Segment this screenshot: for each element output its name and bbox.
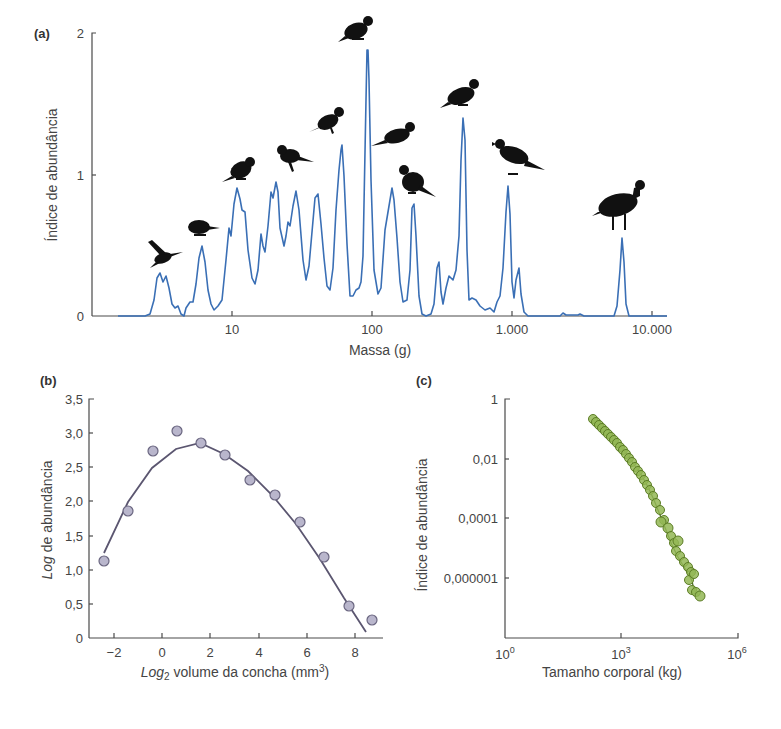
panel-c-y-label: Índice de abundância xyxy=(414,458,430,591)
panel-b-ytick: 2,5 xyxy=(65,460,83,475)
panel-c-trend-line xyxy=(593,420,699,596)
panel-b-ytick: 2,0 xyxy=(65,494,83,509)
panel-a-xtick: 10 xyxy=(225,322,239,337)
panel-c-ytick: 0,000001 xyxy=(444,571,498,586)
panel-c-points xyxy=(589,415,706,602)
panel-c-ytick: 1 xyxy=(491,392,498,407)
quail-silhouette-icon xyxy=(399,165,436,197)
panel-b-xtick: 6 xyxy=(303,645,310,660)
panel-b-xtick: 2 xyxy=(206,645,213,660)
panel-a-y-label: Índice de abundância xyxy=(44,108,60,241)
dove-silhouette-icon xyxy=(371,122,415,146)
panel-b-fit-line xyxy=(104,443,366,632)
pigeon-silhouette-icon xyxy=(440,79,479,108)
sparrow-silhouette-icon xyxy=(277,145,314,172)
grouse-silhouette-icon xyxy=(592,180,645,230)
panel-c-xtick: 103 xyxy=(611,645,630,662)
panel-b-ytick: 1,5 xyxy=(65,529,83,544)
panel-b-xtick: 0 xyxy=(158,645,165,660)
panel-b-label: (b) xyxy=(40,373,57,388)
panel-b-points xyxy=(99,426,377,625)
panel-a-x-label: Massa (g) xyxy=(349,342,411,358)
panel-c-x-label: Tamanho corporal (kg) xyxy=(542,664,682,680)
panel-b-ytick: 3,5 xyxy=(65,392,83,407)
panel-b-x-label: Log2 volume da concha (mm3) xyxy=(141,663,330,682)
panel-b-ytick: 0 xyxy=(76,631,83,646)
panel-a-abundance-curve xyxy=(118,50,667,316)
panel-a-xtick: 10.000 xyxy=(632,322,672,337)
hummingbird-silhouette-icon xyxy=(148,240,183,268)
thrush-silhouette-icon xyxy=(309,107,344,134)
panel-c-ytick: 0,01 xyxy=(473,452,498,467)
panel-c-ytick: 0,0001 xyxy=(458,511,498,526)
panel-b-y-label: Log de abundância xyxy=(39,460,55,579)
finch-silhouette-icon xyxy=(222,157,255,182)
panel-b-ytick: 1,0 xyxy=(65,563,83,578)
small-bird-silhouette-icon xyxy=(188,220,220,236)
panel-a-label: (a) xyxy=(34,26,50,41)
starling-silhouette-icon xyxy=(338,16,373,43)
panel-a: (a) 2 1 0 10 100 1.000 10.000 Massa (g) … xyxy=(34,16,672,358)
panel-a-xtick: 100 xyxy=(361,322,383,337)
panel-b-ytick: 3,0 xyxy=(65,426,83,441)
panel-b-xtick: 4 xyxy=(255,645,262,660)
panel-a-ytick: 0 xyxy=(77,309,84,324)
panel-a-ytick: 1 xyxy=(77,168,84,183)
panel-c-label: (c) xyxy=(416,373,432,388)
panel-c: (c) 1 0,01 0,0001 0,000001 100 103 106 T… xyxy=(414,373,747,680)
panel-a-ytick: 2 xyxy=(77,26,84,41)
crow-silhouette-icon xyxy=(492,139,545,175)
panel-c-xtick: 106 xyxy=(727,645,746,662)
panel-b-xtick: −2 xyxy=(107,645,122,660)
figure: (a) 2 1 0 10 100 1.000 10.000 Massa (g) … xyxy=(0,0,781,729)
panel-b-y-axis xyxy=(89,399,94,638)
panel-b-ytick: 0,5 xyxy=(65,597,83,612)
panel-b: (b) 3,5 3,0 2,5 2,0 1,5 1,0 0,5 0 −2 0 2… xyxy=(39,373,383,682)
panel-a-xtick: 1.000 xyxy=(496,322,529,337)
panel-b-xtick: 8 xyxy=(351,645,358,660)
panel-c-xtick: 100 xyxy=(495,645,514,662)
